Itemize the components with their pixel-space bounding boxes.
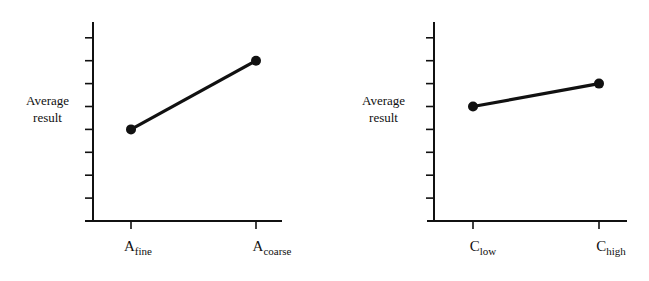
x-tick-label-c-low: Clow [470, 238, 497, 257]
data-line [131, 61, 256, 130]
charts-canvas [0, 0, 649, 281]
data-line [473, 84, 599, 107]
data-point [594, 79, 604, 89]
y-axis-label-line1: Average [362, 92, 405, 109]
chart-panel-c [426, 22, 627, 229]
y-axis-label-line2: result [362, 109, 405, 126]
x-tick-label-a-coarse: Acoarse [253, 238, 292, 257]
x-tick-label-a-fine: Afine [124, 238, 152, 257]
data-point [468, 102, 478, 112]
y-axis-label-right: Average result [362, 92, 405, 126]
data-point [126, 124, 136, 134]
y-axis-label-line1: Average [26, 92, 69, 109]
chart-panel-a [85, 22, 282, 229]
y-axis-label-left: Average result [26, 92, 69, 126]
data-point [251, 56, 261, 66]
y-axis-label-line2: result [26, 109, 69, 126]
x-tick-label-c-high: Chigh [596, 238, 626, 257]
